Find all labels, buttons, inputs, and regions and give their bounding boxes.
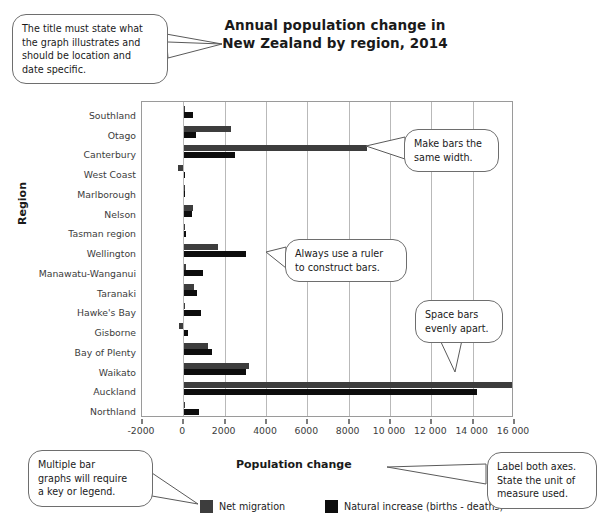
x-axis-tick-label: 14 000 (455, 425, 488, 436)
bar-natural-increase (183, 290, 196, 296)
legend-item: Net migration (200, 500, 285, 513)
callout-line: Space bars (425, 308, 493, 322)
page-title: Annual population change in New Zealand … (210, 16, 460, 52)
x-axis-tick-label: 10 000 (373, 425, 406, 436)
callout-line: graphs will require (38, 472, 143, 486)
callout-line: The title must state what (22, 22, 158, 36)
callout-bar-spacing: Space bars evenly apart. (415, 300, 503, 343)
x-axis-tick-label: 16 000 (497, 425, 530, 436)
bar-natural-increase (183, 132, 195, 138)
y-axis-tick-label: Gisborne (36, 327, 136, 338)
legend-label: Natural increase (births - deaths) (344, 501, 503, 512)
x-axis-tick-label: 2000 (212, 425, 236, 436)
x-axis-tick (389, 419, 391, 424)
y-axis-tick-label: Nelson (36, 208, 136, 219)
chart-title-line-2: New Zealand by region, 2014 (210, 34, 460, 52)
callout-line: Label both axes. (497, 460, 587, 474)
chart-title-line-1: Annual population change in (210, 16, 460, 34)
x-axis-tick (513, 419, 515, 424)
callout-line: evenly apart. (425, 322, 493, 336)
bar-net-migration (183, 363, 249, 369)
bar-net-migration (183, 145, 367, 151)
y-axis-tick-label: Bay of Plenty (36, 346, 136, 357)
bar-net-migration (183, 343, 208, 349)
x-axis-tick (348, 419, 350, 424)
y-axis-tick-label: Manawatu-Wanganui (36, 267, 136, 278)
y-axis-tick-label: Auckland (36, 386, 136, 397)
legend-item: Natural increase (births - deaths) (325, 500, 503, 513)
callout-line: measure used. (497, 487, 587, 501)
callout-line: State the unit of (497, 474, 587, 488)
callout-line: to construct bars. (295, 261, 397, 275)
bar-natural-increase (183, 211, 191, 217)
x-axis-tick (224, 419, 226, 424)
y-axis-tick-label: Canterbury (36, 149, 136, 160)
bar-net-migration (183, 205, 192, 211)
callout-line: same width. (414, 151, 489, 165)
x-axis-tick (430, 419, 432, 424)
bar-natural-increase (183, 349, 212, 355)
callout-label-axes: Label both axes. State the unit of measu… (487, 452, 597, 509)
bar-natural-increase (183, 270, 203, 276)
callout-line: date specific. (22, 63, 158, 77)
y-axis-title: Region (16, 182, 29, 225)
x-axis-tick (306, 419, 308, 424)
x-axis-tick (472, 419, 474, 424)
callout-title-advice: The title must state what the graph illu… (12, 14, 168, 84)
bar-net-migration (183, 126, 231, 132)
y-axis-tick-label: Marlborough (36, 188, 136, 199)
callout-line: Always use a ruler (295, 247, 397, 261)
bar-natural-increase (183, 152, 235, 158)
x-axis-tick-label: 0 (179, 425, 185, 436)
bar-net-migration (183, 244, 218, 250)
callout-bar-width: Make bars the same width. (404, 129, 499, 172)
bar-net-migration (183, 382, 512, 388)
legend-swatch (200, 500, 213, 513)
legend-swatch (325, 500, 338, 513)
y-axis-tick-label: Waikato (36, 366, 136, 377)
callout-line: Make bars the (414, 137, 489, 151)
callout-line: the graph illustrates and (22, 36, 158, 50)
y-axis-tick-labels: SouthlandOtagoCanterburyWest CoastMarlbo… (36, 101, 136, 417)
bar-natural-increase (183, 112, 192, 118)
x-axis-tick (265, 419, 267, 424)
y-axis-tick-label: West Coast (36, 169, 136, 180)
y-axis-tick-label: Taranaki (36, 287, 136, 298)
x-axis-tick-label: 6000 (294, 425, 318, 436)
bar-natural-increase (183, 409, 199, 415)
zero-line (183, 102, 184, 416)
y-axis-tick-label: Hawke's Bay (36, 307, 136, 318)
bar-natural-increase (183, 369, 246, 375)
bar-natural-increase (183, 389, 476, 395)
bar-natural-increase (183, 310, 201, 316)
x-axis-tick (182, 419, 184, 424)
callout-use-ruler: Always use a ruler to construct bars. (285, 239, 407, 282)
x-axis-title: Population change (236, 458, 352, 471)
y-axis-tick-label: Wellington (36, 248, 136, 259)
y-axis-tick-label: Tasman region (36, 228, 136, 239)
callout-line: Multiple bar (38, 458, 143, 472)
callout-line: a key or legend. (38, 485, 143, 499)
x-axis-tick-label: -2000 (127, 425, 154, 436)
legend-label: Net migration (219, 501, 285, 512)
y-axis-tick-label: Otago (36, 129, 136, 140)
y-axis-tick-label: Northland (36, 406, 136, 417)
x-axis-tick-label: 12 000 (414, 425, 447, 436)
bar-net-migration (183, 284, 193, 290)
callout-line: should be location and (22, 49, 158, 63)
x-axis-tick-label: 4000 (253, 425, 277, 436)
x-axis-tick-label: 8000 (336, 425, 360, 436)
y-axis-tick-label: Southland (36, 109, 136, 120)
x-axis-tick (141, 419, 143, 424)
bar-natural-increase (183, 251, 246, 257)
callout-legend-advice: Multiple bar graphs will require a key o… (28, 450, 153, 507)
